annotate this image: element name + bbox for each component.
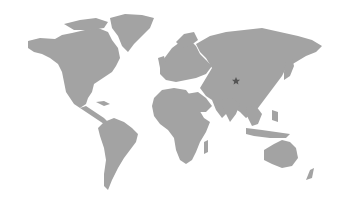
north-america xyxy=(28,28,120,108)
arctic-islands xyxy=(64,18,108,30)
southeast-asia xyxy=(246,106,262,126)
world-map xyxy=(0,0,348,207)
madagascar xyxy=(204,140,208,154)
australia xyxy=(264,140,298,168)
indonesia xyxy=(246,128,290,138)
caribbean xyxy=(96,101,110,106)
asia xyxy=(196,28,322,118)
new-zealand xyxy=(306,168,314,180)
philippines xyxy=(272,110,278,122)
south-america xyxy=(98,118,138,190)
central-america xyxy=(80,106,108,124)
